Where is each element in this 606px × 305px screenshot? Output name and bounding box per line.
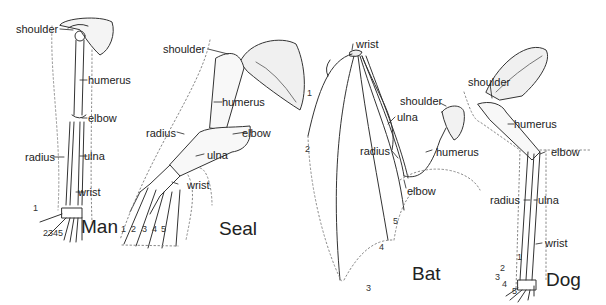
man-wrist-label: wrist <box>78 186 101 198</box>
bat-digit-1: 1 <box>307 88 312 98</box>
bat-digit-4: 4 <box>379 242 384 252</box>
bat-wing-drawing <box>308 50 480 282</box>
dog-elbow-label: elbow <box>551 146 580 158</box>
seal-digit-4: 4 <box>152 224 157 234</box>
dog-digit-3: 3 <box>495 272 500 282</box>
seal-shoulder-label: shoulder <box>163 43 205 55</box>
man-digits-2-5: 2345 <box>43 228 63 238</box>
dog-digit-1: 1 <box>517 252 522 262</box>
man-arm-drawing <box>40 18 113 242</box>
seal-ulna-label: ulna <box>207 149 228 161</box>
dog-wrist-label: wrist <box>545 237 568 249</box>
bat-elbow-label: elbow <box>407 185 436 197</box>
man-title: Man <box>81 217 118 237</box>
bat-wrist-label: wrist <box>356 38 379 50</box>
man-digit-1: 1 <box>33 203 38 213</box>
seal-elbow-label: elbow <box>242 127 271 139</box>
seal-radius-label: radius <box>146 127 176 139</box>
bat-digit-3: 3 <box>366 283 371 293</box>
bat-digit-5: 5 <box>393 216 398 226</box>
bat-ulna-label: ulna <box>397 111 418 123</box>
forelimb-homology-diagram: shoulder humerus elbow radius ulna wrist… <box>0 0 606 305</box>
dog-ulna-label: ulna <box>538 194 559 206</box>
dog-radius-label: radius <box>490 194 520 206</box>
man-shoulder-label: shoulder <box>16 23 58 35</box>
seal-digit-1: 1 <box>121 224 126 234</box>
seal-humerus-label: humerus <box>222 96 265 108</box>
seal-title: Seal <box>219 219 257 239</box>
bat-shoulder-label: shoulder <box>400 95 442 107</box>
man-humerus-label: humerus <box>88 74 131 86</box>
bat-digit-2: 2 <box>305 144 310 154</box>
seal-digit-2: 2 <box>131 224 136 234</box>
dog-shoulder-label: shoulder <box>468 76 510 88</box>
man-radius-label: radius <box>25 151 55 163</box>
dog-digit-5: 5 <box>512 286 517 296</box>
dog-title: Dog <box>546 270 581 290</box>
bat-radius-label: radius <box>360 145 390 157</box>
dog-humerus-label: humerus <box>514 118 557 130</box>
man-elbow-label: elbow <box>88 112 117 124</box>
seal-flipper-drawing <box>120 40 304 248</box>
man-ulna-label: ulna <box>84 150 105 162</box>
seal-wrist-label: wrist <box>187 179 210 191</box>
bat-title: Bat <box>412 264 441 284</box>
seal-digit-5: 5 <box>161 224 166 234</box>
dog-digit-2: 2 <box>500 263 505 273</box>
dog-digit-4: 4 <box>502 279 507 289</box>
seal-digit-3: 3 <box>142 224 147 234</box>
bat-humerus-label: humerus <box>436 146 479 158</box>
